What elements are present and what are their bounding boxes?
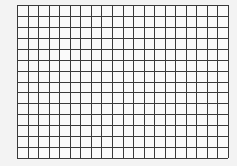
graph-paper-canvas — [0, 0, 237, 166]
square-grid — [0, 0, 237, 166]
